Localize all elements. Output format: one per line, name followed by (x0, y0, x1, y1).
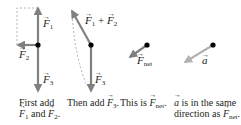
f3-vec-arrow-icon: → (43, 69, 50, 77)
caption-panel-1: First add F1 and F2. (19, 97, 60, 123)
dashed-parallelogram (17, 8, 37, 45)
f1-vec-arrow-icon: → (43, 13, 50, 21)
particle-dot (210, 42, 215, 47)
caption-panel-2: Then add F3. (67, 97, 119, 112)
particle-dot (35, 42, 40, 47)
caption-line: direction as Fnet. (174, 108, 240, 123)
caption-line: F1 and F2. (19, 108, 60, 123)
panel-4-diagram: a → (185, 42, 216, 66)
f2-vec-arrow-icon: → (19, 44, 26, 52)
vec-arrow-icon: → (85, 10, 92, 18)
panel-2-diagram: F1 + F2 → → F3 → (72, 10, 118, 91)
panel-1-diagram: F1 → F2 → F3 → (17, 8, 54, 91)
caption-panel-3: This is Fnet. (120, 97, 167, 112)
particle-dot (88, 42, 93, 47)
caption-panel-4: a is in the same direction as Fnet. (174, 97, 240, 123)
panel-3-diagram: Fnet → (130, 42, 152, 68)
vec-arrow-icon: → (108, 10, 115, 18)
a-vec-arrow-icon: → (202, 51, 209, 59)
particle-dot (144, 42, 149, 47)
f3-vec-arrow-icon: → (95, 69, 102, 77)
caption-line: a is in the same (174, 97, 240, 108)
fnet-vec-arrow-icon: → (137, 50, 144, 58)
